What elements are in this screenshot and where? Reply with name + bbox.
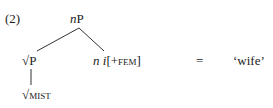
- n-head: n: [93, 53, 100, 68]
- right-node: n i[+fem]: [93, 54, 141, 67]
- gloss: ‘wife’: [233, 54, 265, 67]
- branch-right: [79, 28, 104, 51]
- root-node: nP: [70, 12, 84, 25]
- root-phrase: P: [77, 11, 84, 26]
- feature: [+fem]: [106, 53, 141, 68]
- equals-sign: =: [196, 54, 203, 67]
- example-number: (2): [5, 12, 20, 25]
- branch-left: [37, 28, 79, 51]
- left-node: √P: [22, 54, 36, 67]
- root-leaf: √mist: [22, 88, 51, 101]
- root-word: mist: [29, 87, 51, 102]
